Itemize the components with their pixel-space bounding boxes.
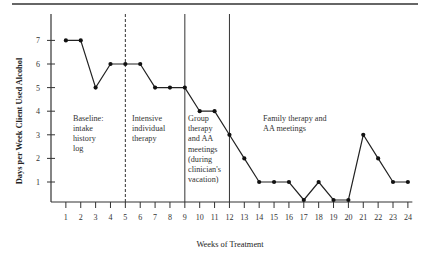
data-point — [153, 86, 157, 90]
annotation-line: AA meetings — [263, 124, 306, 133]
x-tick-label: 1 — [64, 213, 68, 222]
x-tick-label: 19 — [330, 213, 338, 222]
x-tick-label: 13 — [240, 213, 248, 222]
annotation-line: vacation) — [188, 175, 219, 184]
data-point — [94, 86, 98, 90]
annotation-line: Group — [188, 114, 209, 123]
data-point — [212, 109, 216, 113]
data-point — [183, 86, 187, 90]
annotation-line: intake — [73, 124, 93, 133]
x-tick-label: 15 — [270, 213, 278, 222]
x-tick-label: 21 — [359, 213, 367, 222]
x-tick-label: 9 — [183, 213, 187, 222]
y-tick-label: 2 — [36, 154, 40, 163]
x-tick-label: 4 — [108, 213, 112, 222]
x-tick-label: 24 — [404, 213, 412, 222]
x-tick-label: 11 — [211, 213, 219, 222]
data-point — [376, 156, 380, 160]
y-tick-label: 1 — [36, 178, 40, 187]
data-point — [227, 133, 231, 137]
annotation-line: individual — [132, 124, 166, 133]
annotation-baseline: Baseline:intakehistorylog — [73, 114, 103, 153]
x-tick-label: 14 — [255, 213, 263, 222]
data-point — [123, 62, 127, 66]
data-point — [346, 198, 350, 202]
y-tick-label: 7 — [36, 36, 40, 45]
data-point — [198, 109, 202, 113]
y-tick-label: 6 — [36, 60, 40, 69]
annotation-line: Family therapy and — [263, 114, 327, 123]
data-point — [317, 180, 321, 184]
x-tick-label: 10 — [196, 213, 204, 222]
chart: 1234567123456789101112131415161718192021… — [0, 0, 428, 265]
data-point — [168, 86, 172, 90]
x-tick-label: 8 — [168, 213, 172, 222]
data-point — [391, 180, 395, 184]
x-tick-label: 2 — [79, 213, 83, 222]
x-tick-label: 17 — [300, 213, 308, 222]
x-tick-label: 16 — [285, 213, 293, 222]
annotation-group: Grouptherapyand AAmeetings(duringclinici… — [188, 114, 221, 184]
x-tick-label: 20 — [344, 213, 352, 222]
y-tick-label: 4 — [36, 107, 40, 116]
y-axis-label: Days per Week Client Used Alcohol — [15, 57, 24, 184]
x-tick-label: 7 — [153, 213, 157, 222]
data-point — [406, 180, 410, 184]
annotation-line: and AA — [188, 134, 213, 143]
data-point — [79, 38, 83, 42]
annotation-intensive: Intensiveindividualtherapy — [132, 114, 166, 143]
data-point — [242, 156, 246, 160]
x-tick-label: 23 — [389, 213, 397, 222]
series-line — [66, 40, 408, 200]
x-tick-label: 6 — [138, 213, 142, 222]
annotation-line: history — [73, 134, 97, 143]
data-point — [331, 198, 335, 202]
data-point — [287, 180, 291, 184]
y-tick-label: 5 — [36, 84, 40, 93]
x-axis-label: Weeks of Treatment — [196, 240, 264, 249]
data-point — [302, 198, 306, 202]
annotation-line: clinician's — [188, 165, 221, 174]
annotation-line: Intensive — [132, 114, 162, 123]
x-tick-label: 3 — [94, 213, 98, 222]
phase-annotations: Baseline:intakehistorylogIntensiveindivi… — [73, 114, 327, 184]
annotation-family: Family therapy andAA meetings — [263, 114, 327, 133]
data-point — [257, 180, 261, 184]
annotation-line: therapy — [188, 124, 213, 133]
y-tick-label: 3 — [36, 131, 40, 140]
x-tick-label: 18 — [315, 213, 323, 222]
x-tick-label: 12 — [225, 213, 233, 222]
data-point — [138, 62, 142, 66]
annotation-line: therapy — [132, 134, 157, 143]
data-point — [64, 38, 68, 42]
annotation-line: log — [73, 144, 83, 153]
x-tick-label: 22 — [374, 213, 382, 222]
annotation-line: (during — [188, 155, 212, 164]
annotation-line: meetings — [188, 145, 218, 154]
data-point — [272, 180, 276, 184]
annotation-line: Baseline: — [73, 114, 103, 123]
data-point — [108, 62, 112, 66]
data-point — [361, 133, 365, 137]
x-tick-label: 5 — [123, 213, 127, 222]
data-series — [64, 38, 410, 202]
